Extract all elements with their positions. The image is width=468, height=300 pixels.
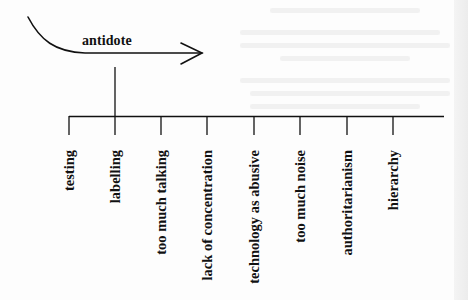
- axis-label-text: lack of concentration: [200, 150, 214, 280]
- axis-label-text: authoritarianism: [340, 150, 354, 256]
- axis-lines: [69, 67, 444, 135]
- axis-label-text: labelling: [108, 150, 122, 203]
- axis-label-text: hierarchy: [386, 150, 400, 210]
- axis-label-text: too much talking: [154, 150, 168, 255]
- axis-label-text: technology as abusive: [247, 150, 261, 284]
- axis-label-text: too much noise: [293, 150, 307, 243]
- axis-label-text: testing: [62, 150, 76, 191]
- antidote-label: antidote: [82, 33, 132, 49]
